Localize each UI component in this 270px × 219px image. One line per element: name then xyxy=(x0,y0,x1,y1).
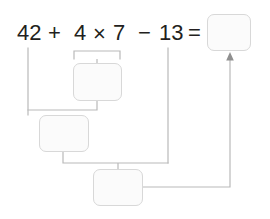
arrowhead-icon xyxy=(226,52,234,61)
connector-multiply-to-add xyxy=(28,101,97,110)
step2-addition-box[interactable] xyxy=(39,115,89,152)
operator-equals: = xyxy=(188,22,201,44)
connector-arrow-to-final-answer xyxy=(143,52,234,187)
operand-4: 4 xyxy=(74,22,86,44)
operator-multiply: × xyxy=(93,23,106,45)
operand-7: 7 xyxy=(113,22,125,44)
operator-minus: − xyxy=(138,22,151,44)
operand-42: 42 xyxy=(17,22,41,44)
worksheet-canvas: 42 + 4 × 7 − 13 = xyxy=(0,0,270,219)
operator-plus: + xyxy=(48,22,61,44)
grouping-bracket-multiply-icon xyxy=(74,51,120,59)
operand-13: 13 xyxy=(159,22,183,44)
step3-subtraction-box[interactable] xyxy=(93,169,143,206)
connector-add-to-subtract xyxy=(63,152,168,163)
step1-multiplication-box[interactable] xyxy=(73,63,122,101)
final-answer-box[interactable] xyxy=(207,14,251,51)
